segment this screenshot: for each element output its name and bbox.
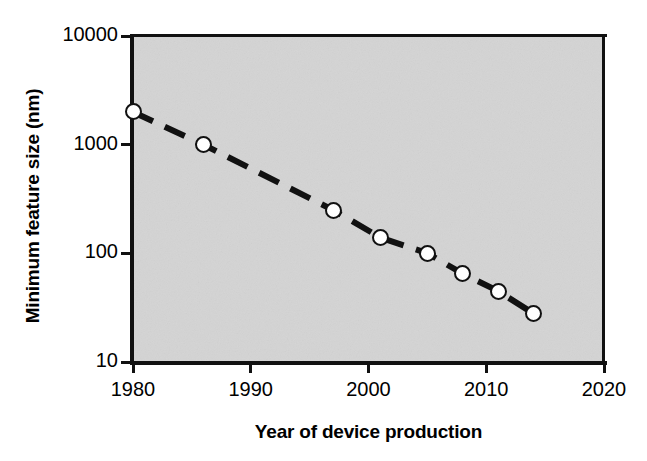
- x-tick-label: 2000: [324, 378, 414, 401]
- data-point-marker: [372, 229, 389, 246]
- x-tick-mark: [132, 361, 135, 373]
- data-point-marker: [125, 103, 142, 120]
- y-tick-mark: [121, 35, 133, 38]
- chart-figure: 10000100010010 19801990200020102020 Mini…: [0, 0, 647, 461]
- x-tick-label: 2020: [559, 378, 647, 401]
- x-axis-title: Year of device production: [133, 421, 604, 443]
- x-tick-mark: [249, 361, 252, 373]
- x-tick-label: 1990: [206, 378, 296, 401]
- y-tick-label: 10000: [8, 23, 118, 46]
- x-tick-mark: [485, 361, 488, 373]
- axis-right-spine: [602, 34, 605, 365]
- y-tick-mark: [121, 252, 133, 255]
- axis-top-spine: [130, 34, 607, 37]
- x-tick-mark: [367, 361, 370, 373]
- data-point-marker: [419, 245, 436, 262]
- x-tick-label: 2010: [441, 378, 531, 401]
- data-point-marker: [490, 283, 507, 300]
- data-point-marker: [325, 202, 342, 219]
- x-tick-mark: [603, 361, 606, 373]
- axis-left-spine: [130, 34, 134, 365]
- y-tick-mark: [121, 143, 133, 146]
- x-tick-label: 1980: [88, 378, 178, 401]
- y-axis-title: Minimum feature size (nm): [22, 56, 44, 356]
- data-point-marker: [525, 305, 542, 322]
